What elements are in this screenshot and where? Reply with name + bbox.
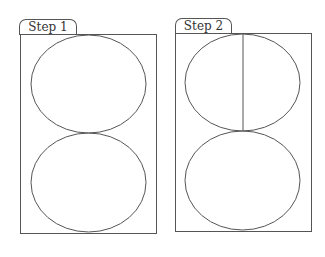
step-2-bottom-circle — [185, 131, 300, 230]
diagram-shapes — [0, 0, 325, 257]
step-1-top-circle — [31, 35, 146, 133]
step-1-bottom-circle — [31, 133, 146, 232]
